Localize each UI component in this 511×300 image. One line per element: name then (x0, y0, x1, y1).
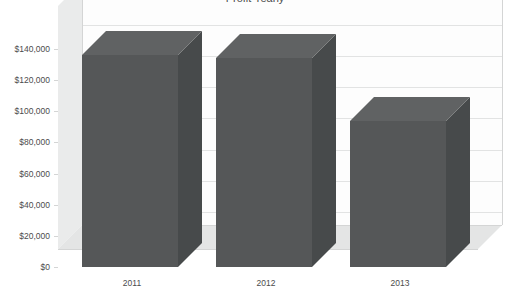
bar-2013[interactable] (350, 97, 470, 267)
bar-2011-side-face (178, 31, 202, 267)
chart-title: Profit Yearly (226, 0, 285, 4)
x-tick-label-2011: 2011 (123, 278, 142, 288)
bar-2011[interactable] (82, 31, 202, 267)
bar-2013-side-face (446, 97, 470, 267)
y-tick-label: $120,000 (15, 75, 51, 85)
chart-container: Profit Yearly $140,000 $120,000 $100,000… (0, 0, 511, 300)
y-axis-labels: $140,000 $120,000 $100,000 $80,000 $60,0… (15, 44, 51, 272)
y-tick-label: $100,000 (15, 106, 51, 116)
x-tick-label-2013: 2013 (391, 278, 410, 288)
y-axis-ticks (54, 49, 58, 267)
y-tick-label: $140,000 (15, 44, 51, 54)
bar-2011-front-face (82, 55, 178, 267)
bar-2012-side-face (312, 34, 336, 267)
y-tick-label: $80,000 (19, 137, 50, 147)
bar-2013-front-face (350, 121, 446, 267)
bar-chart-3d: Profit Yearly $140,000 $120,000 $100,000… (0, 0, 511, 300)
y-tick-label: $20,000 (19, 231, 50, 241)
y-tick-label: $0 (41, 262, 51, 272)
y-tick-label: $60,000 (19, 169, 50, 179)
x-tick-label-2012: 2012 (257, 278, 276, 288)
x-axis-labels: 2011 2012 2013 (123, 278, 410, 288)
y-tick-label: $40,000 (19, 200, 50, 210)
bar-2012[interactable] (216, 34, 336, 267)
bar-2012-front-face (216, 58, 312, 267)
left-wall (58, 0, 82, 249)
